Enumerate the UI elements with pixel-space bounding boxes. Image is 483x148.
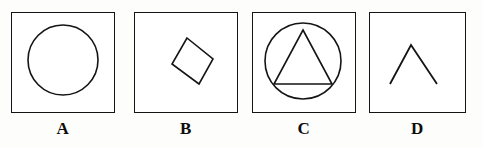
panel-d-label: D — [369, 119, 466, 139]
panel-a-label: A — [11, 119, 115, 139]
option-panel-a[interactable]: A — [11, 0, 115, 148]
panel-c-shape-circle-triangle — [252, 12, 356, 113]
panel-b-shape-rhombus — [134, 12, 238, 113]
option-panel-b[interactable]: B — [134, 0, 238, 148]
option-panel-c[interactable]: C — [252, 0, 356, 148]
figure-container: A B C D — [0, 0, 483, 148]
panel-a-shape-circle — [11, 12, 115, 113]
panel-d-shape-chevron — [369, 12, 466, 113]
panel-b-label: B — [134, 119, 238, 139]
panel-c-label: C — [252, 119, 356, 139]
option-panel-d[interactable]: D — [369, 0, 466, 148]
